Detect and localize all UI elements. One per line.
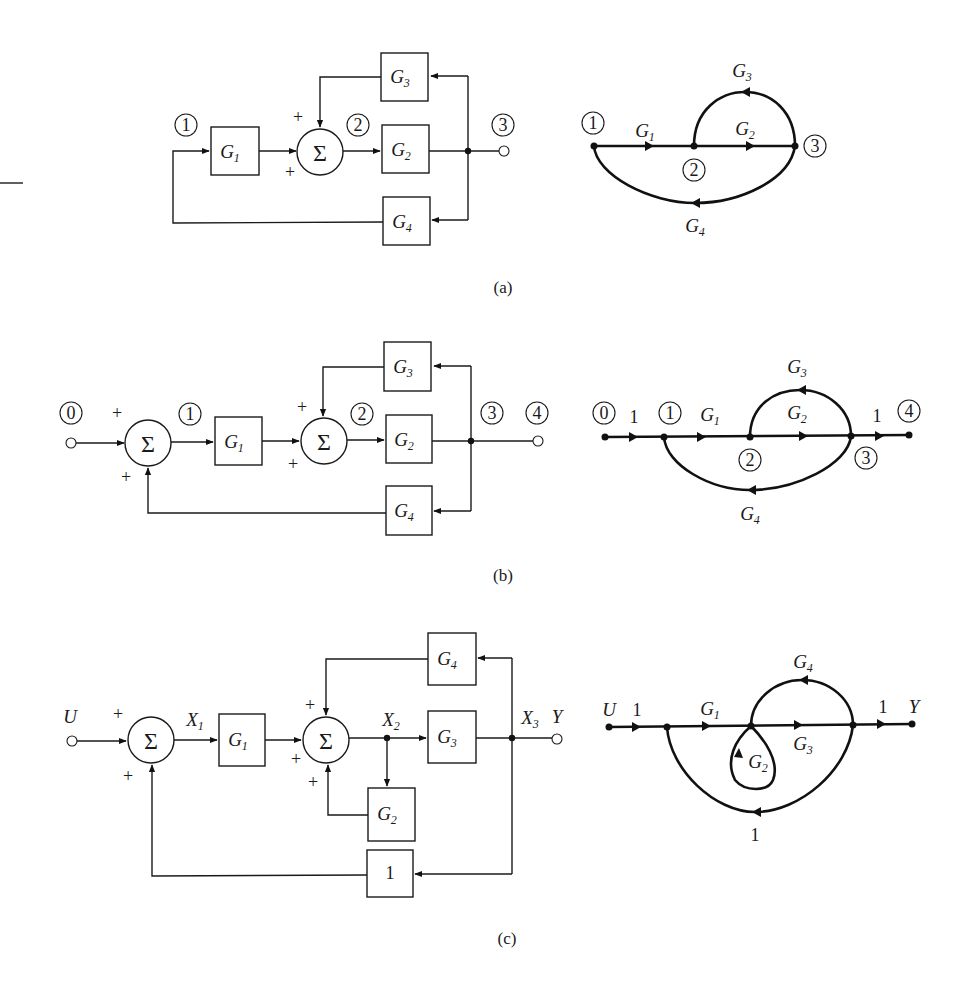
svg-text:G3: G3 (787, 356, 807, 380)
svg-text:+: + (305, 695, 315, 715)
svg-text:+: + (308, 772, 318, 792)
node-label: 1 (589, 113, 598, 133)
branch-g4 (751, 680, 853, 726)
svg-text:G4: G4 (793, 651, 813, 675)
block-diagram-a: 1 G1 Σ + + 2 G2 G3 G4 3 (173, 53, 514, 245)
sfg-node (591, 143, 598, 150)
svg-text:G1: G1 (700, 698, 720, 722)
arrow-icon (746, 141, 755, 151)
node-label: 4 (533, 403, 542, 423)
node-label: 2 (690, 160, 699, 180)
input-terminal (67, 736, 77, 746)
svg-text:Σ: Σ (144, 728, 158, 754)
input-terminal (66, 438, 76, 448)
block-diagram-b: 0 Σ + + 1 G1 Σ + + 2 G2 G3 G4 3 4 (60, 342, 548, 535)
signal-label: U (63, 706, 78, 727)
branch-label: 1 (751, 825, 760, 845)
node-label: 1 (666, 403, 675, 423)
figure-canvas: 1 G1 Σ + + 2 G2 G3 G4 3 (0, 0, 959, 989)
node-label: 2 (746, 450, 755, 470)
node-label: 2 (354, 115, 363, 135)
svg-text:X3: X3 (520, 707, 539, 731)
svg-text:G2: G2 (748, 751, 768, 775)
node-label: 3 (862, 448, 871, 468)
plus-sign: + (121, 467, 131, 487)
branch-label: 1 (873, 406, 882, 426)
caption-a: (a) (494, 278, 513, 297)
svg-text:G2: G2 (787, 402, 807, 426)
feedback-line-g4 (173, 151, 383, 223)
node-label: 1 (182, 115, 191, 135)
branch-label: G4 (685, 215, 705, 239)
node-label: 3 (499, 115, 508, 135)
node-label: 4 (905, 401, 914, 421)
branch-label: G1 (635, 120, 655, 144)
svg-text:X2: X2 (381, 709, 400, 733)
plus-sign: + (297, 397, 307, 417)
junction-dot (509, 735, 515, 741)
sfg-node (691, 143, 698, 150)
node-label: 3 (488, 403, 497, 423)
signal-label: Y (552, 706, 565, 727)
sum-symbol: Σ (313, 140, 327, 166)
block-label: 1 (386, 863, 395, 883)
plus-sign: + (288, 454, 298, 474)
output-terminal (533, 436, 543, 446)
signal-label: Y (909, 696, 922, 717)
sum-symbol: Σ (317, 429, 331, 455)
caption-c: (c) (498, 929, 517, 948)
signal-flow-graph-c: U 1 G1 G4 G3 G2 1 Y 1 (602, 651, 922, 845)
svg-text:G4: G4 (740, 503, 760, 527)
caption-b: (b) (493, 566, 513, 585)
signal-flow-graph-b: 0 1 2 3 4 1 1 G1 G2 G3 G4 (593, 356, 920, 527)
svg-text:+: + (123, 766, 133, 786)
signal-flow-graph-a: 1 2 3 G1 G2 G3 G4 (582, 60, 826, 239)
branch-label: G2 (735, 118, 755, 142)
arrow-icon (741, 87, 750, 97)
svg-text:Σ: Σ (319, 728, 333, 754)
junction-dot (468, 438, 474, 444)
arrow-icon (691, 198, 700, 208)
node-label: 0 (600, 403, 609, 423)
node-label: 2 (358, 404, 367, 424)
branch-label: 1 (630, 407, 639, 427)
svg-text:G3: G3 (793, 733, 813, 757)
svg-text:G1: G1 (700, 404, 720, 428)
branch-label: 1 (633, 700, 642, 720)
feedback-line-g4 (148, 468, 386, 513)
branch-forward (609, 724, 912, 727)
branch-label: 1 (879, 697, 888, 717)
node-label: 0 (67, 403, 76, 423)
signal-label: U (602, 699, 617, 720)
svg-text:+: + (113, 704, 123, 724)
branch-forward (605, 435, 909, 437)
branch-label: G3 (732, 60, 752, 84)
node-label: 1 (186, 404, 195, 424)
block-diagram-c: U Σ + + X1 G1 Σ + + + X2 G2 G3 G4 X3 (63, 633, 565, 897)
svg-text:X1: X1 (185, 709, 204, 733)
feedback-line-unity (152, 765, 367, 876)
svg-text:+: + (291, 749, 301, 769)
plus-sign: + (112, 403, 122, 423)
feedback-line-g4 (326, 659, 428, 715)
sfg-node (792, 143, 799, 150)
output-terminal (552, 734, 562, 744)
junction-dot (465, 148, 471, 154)
node-label: 3 (811, 136, 820, 156)
sum-symbol: Σ (141, 431, 155, 457)
plus-sign: + (293, 107, 303, 127)
plus-sign: + (285, 162, 295, 182)
output-terminal (499, 146, 509, 156)
